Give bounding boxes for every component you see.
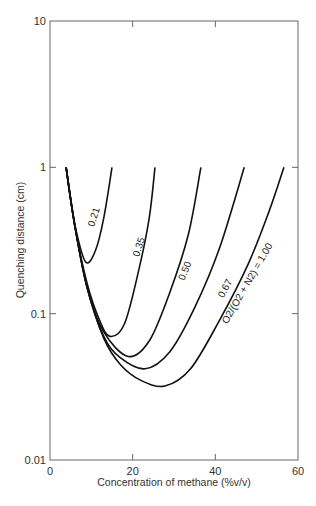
plot-frame	[50, 21, 298, 460]
y-axis-title: Quenching distance (cm)	[14, 182, 26, 299]
y-tick-label: 0.01	[25, 454, 46, 466]
curve-labels: 0.210.350.500.67O2/(O2 + N2) = 1.00	[85, 206, 274, 326]
curve-label-0.50: 0.50	[176, 259, 194, 282]
x-tick-label: 60	[292, 465, 304, 477]
y-tick-label: 10	[34, 15, 46, 27]
curve-label-0.21: 0.21	[85, 206, 102, 228]
x-axis-title: Concentration of methane (%v/v)	[97, 476, 251, 488]
x-tick-label: 0	[47, 465, 53, 477]
curve-0.67	[66, 167, 244, 369]
y-tick-label: 1	[40, 161, 46, 173]
chart: 02040600.010.1110 0.210.350.500.67O2/(O2…	[0, 0, 316, 506]
y-tick-label: 0.1	[31, 308, 46, 320]
